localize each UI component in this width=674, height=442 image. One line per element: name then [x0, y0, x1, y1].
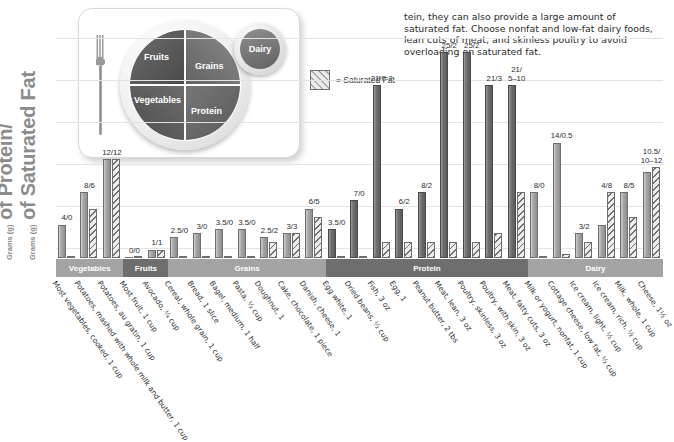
category-band: VegetablesFruitsGrainsProteinDairy: [56, 259, 663, 277]
bar-value-label: 0/0: [129, 247, 140, 256]
bar-protein: [328, 229, 336, 258]
bar-value-label: 3.5/0: [216, 219, 233, 228]
category-band-grains: Grains: [168, 259, 325, 277]
bar-protein: [418, 192, 426, 258]
bar-value-label: 8/2: [421, 182, 432, 191]
bar-value-label: 3/0: [196, 223, 207, 232]
bar-protein: [373, 85, 381, 258]
bar-protein: [58, 225, 66, 258]
bar-value-label: 8/5: [624, 182, 635, 191]
bar-protein: [463, 52, 471, 258]
y-axis-text-2: of Saturated Fat: [17, 71, 39, 220]
bar-value-label: 2.5/0: [171, 227, 188, 236]
y-axis-units-2: Grams (g): [28, 225, 37, 260]
bar-saturated-fat: [472, 242, 480, 258]
y-axis-text-1: of Protein/: [0, 123, 16, 220]
bar-saturated-fat: [247, 256, 255, 258]
bar-value-label: 21/5–10: [508, 66, 525, 83]
bar-protein: [395, 209, 403, 258]
bar-saturated-fat: [337, 256, 345, 258]
bar-saturated-fat: [224, 256, 232, 258]
bar-value-label: 21/0-2: [371, 75, 393, 84]
bar-saturated-fat: [292, 233, 300, 258]
bar-value-label: 3/2: [579, 223, 590, 232]
bar-protein: [283, 233, 291, 258]
bar-protein: [215, 229, 223, 258]
bar-value-label: 21/3: [487, 75, 502, 84]
bar-protein: [170, 237, 178, 258]
bar-saturated-fat: [382, 242, 390, 258]
bar-protein: [553, 143, 561, 258]
category-band-protein: Protein: [326, 259, 528, 277]
bar-protein: [575, 233, 583, 258]
bar-saturated-fat: [157, 250, 165, 258]
bar-value-label: 2.5/2: [261, 227, 278, 236]
bar-protein: [508, 85, 516, 258]
y-axis-title-satfat: Grams (g) of Saturated Fat: [17, 71, 40, 260]
bar-value-label: 6/5: [309, 198, 320, 207]
bar-value-label: 8/0: [534, 182, 545, 191]
bar-saturated-fat: [494, 233, 502, 258]
bar-protein: [530, 192, 538, 258]
bar-saturated-fat: [314, 217, 322, 258]
y-axis-title-block: Grams (g) of Protein/ Grams (g) of Satur…: [0, 0, 56, 262]
y-axis-units-1: Grams (g): [5, 225, 14, 260]
bar-protein: [80, 192, 88, 258]
tick-label: Danish, cheese, 1: [298, 279, 343, 338]
bar-saturated-fat: [427, 242, 435, 258]
category-band-fruits: Fruits: [123, 259, 168, 277]
bar-saturated-fat: [202, 256, 210, 258]
bar-protein: [238, 229, 246, 258]
bar-protein: [125, 257, 133, 258]
bar-saturated-fat: [89, 209, 97, 258]
bar-saturated-fat: [179, 256, 187, 258]
bar-value-label: 4/8: [601, 182, 612, 191]
bar-value-label: 8/6: [84, 182, 95, 191]
bar-value-label: 7/0: [354, 190, 365, 199]
bar-protein: [148, 250, 156, 258]
bar-saturated-fat: [607, 192, 615, 258]
bar-value-label: 4/0: [62, 214, 73, 223]
category-band-dairy: Dairy: [528, 259, 663, 277]
bar-saturated-fat: [359, 256, 367, 258]
bar-saturated-fat: [539, 256, 547, 258]
bar-protein: [305, 209, 313, 258]
category-band-vegetables: Vegetables: [56, 259, 123, 277]
tick-label: Egg, 1: [388, 279, 409, 303]
bar-saturated-fat: [134, 256, 142, 258]
bar-chart-plot-area: 4/08/612/120/01/12.5/03/03.5/03.5/02.5/2…: [56, 20, 663, 258]
bar-protein: [485, 85, 493, 258]
bar-saturated-fat: [629, 217, 637, 258]
bar-saturated-fat: [652, 167, 660, 258]
bar-value-label: 3.5/0: [238, 219, 255, 228]
bar-protein: [620, 192, 628, 258]
bar-series-container: 4/08/612/120/01/12.5/03/03.5/03.5/02.5/2…: [56, 20, 663, 258]
bar-protein: [350, 200, 358, 258]
bar-value-label: 3.5/0: [328, 219, 345, 228]
bar-value-label: 10.5/10–12: [641, 148, 663, 165]
bar-value-label: 14/0.5: [551, 132, 573, 141]
bar-value-label: 3/3: [286, 223, 297, 232]
bar-saturated-fat: [517, 192, 525, 258]
bar-value-label: 1/1: [152, 239, 163, 248]
bar-protein: [643, 172, 651, 258]
bar-protein: [103, 159, 111, 258]
bar-saturated-fat: [112, 159, 120, 258]
bar-saturated-fat: [562, 254, 570, 258]
bar-value-label: 12/12: [102, 149, 122, 158]
bar-saturated-fat: [404, 242, 412, 258]
bar-value-label: 25/2: [442, 42, 457, 51]
x-axis-tick-labels: Most vegetables, cooked, 1 cupPotatoes, …: [0, 279, 663, 401]
bar-saturated-fat: [67, 256, 75, 258]
bar-protein: [260, 237, 268, 258]
bar-protein: [193, 233, 201, 258]
bar-protein: [440, 52, 448, 258]
bar-saturated-fat: [584, 242, 592, 258]
bar-value-label: 6/2: [399, 198, 410, 207]
bar-saturated-fat: [269, 242, 277, 258]
bar-protein: [598, 225, 606, 258]
bar-saturated-fat: [449, 242, 457, 258]
y-axis-title-protein: Grams (g) of Protein/: [0, 123, 17, 260]
bar-value-label: 25/2: [464, 42, 479, 51]
